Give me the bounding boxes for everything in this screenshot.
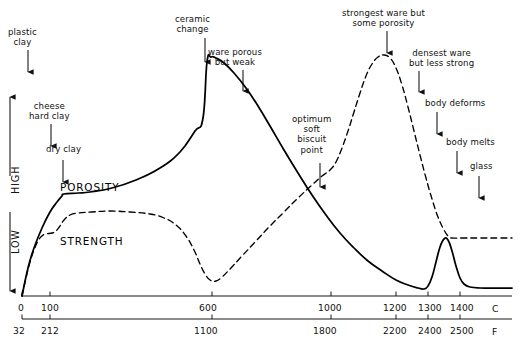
curve-label-porosity: POROSITY (60, 181, 119, 193)
y-axis-label-low: LOW (10, 229, 21, 254)
unit-label-fahrenheit: F (492, 326, 497, 337)
curve-porosity (22, 55, 512, 296)
axis-tick-label-celsius-600: 600 (199, 302, 217, 313)
annotation-glass: glass (470, 161, 493, 171)
annotation-plastic-clay: plastic clay (8, 27, 37, 47)
unit-label-celsius: C (492, 303, 498, 314)
y-axis-label-high: HIGH (10, 166, 21, 194)
data-curves (22, 55, 512, 296)
curve-label-strength: STRENGTH (60, 235, 124, 247)
axis-tick-label-celsius-1000: 1000 (318, 302, 342, 313)
annotation-cheese-hard-clay: cheese hard clay (29, 101, 70, 121)
annotation-body-melts: body melts (446, 137, 495, 147)
axis-tick-label-fahrenheit-2200: 2200 (383, 325, 407, 336)
annotation-densest-ware: densest ware but less strong (409, 48, 474, 68)
axis-tick-label-fahrenheit-2500: 2500 (450, 325, 474, 336)
axis-tick-label-fahrenheit-1800: 1800 (313, 325, 337, 336)
axis-tick-label-fahrenheit-212: 212 (41, 325, 59, 336)
axis-tick-label-celsius-1300: 1300 (418, 302, 442, 313)
annotation-body-deforms: body deforms (425, 98, 485, 108)
curve-strength (22, 55, 512, 296)
axis-tick-label-celsius-1400: 1400 (450, 302, 474, 313)
axis-tick-label-fahrenheit-1100: 1100 (194, 325, 218, 336)
axis-tick-label-fahrenheit-32: 32 (13, 325, 25, 336)
annotation-ware-porous-but-weak: ware porous but weak (208, 47, 262, 67)
axis-tick-label-fahrenheit-2400: 2400 (418, 325, 442, 336)
axis-tick-label-celsius-100: 100 (41, 302, 59, 313)
ceramic-firing-chart: POROSITY STRENGTH HIGH LOW C F plastic c… (0, 0, 519, 344)
annotation-optimum-soft-biscuit: optimum soft biscuit point (292, 114, 331, 155)
axis-tick-label-celsius-1200: 1200 (383, 302, 407, 313)
axis-tick-label-celsius-0: 0 (18, 302, 24, 313)
annotation-dry-clay: dry clay (46, 144, 81, 154)
annotation-strongest-ware: strongest ware but some porosity (342, 8, 425, 28)
annotation-ceramic-change: ceramic change (175, 14, 210, 34)
